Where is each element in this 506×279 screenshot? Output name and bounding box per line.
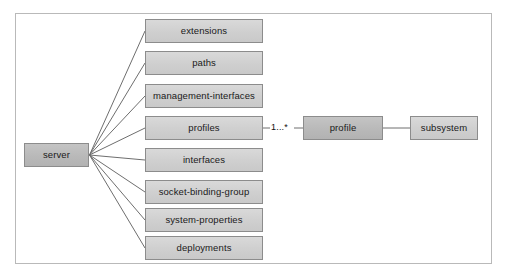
node-server-label: server	[43, 150, 70, 160]
node-socket-binding-group-label: socket-binding-group	[159, 187, 250, 197]
node-interfaces-label: interfaces	[183, 155, 225, 165]
node-extensions[interactable]: extensions	[145, 19, 263, 43]
node-profiles[interactable]: profiles	[145, 116, 263, 140]
diagram-canvas: server extensions paths management-inter…	[0, 0, 506, 279]
node-socket-binding-group[interactable]: socket-binding-group	[145, 180, 263, 204]
node-management-interfaces[interactable]: management-interfaces	[145, 84, 263, 108]
node-subsystem-label: subsystem	[421, 123, 467, 133]
node-interfaces[interactable]: interfaces	[145, 148, 263, 172]
node-server[interactable]: server	[24, 143, 89, 167]
node-profile-label: profile	[330, 123, 357, 133]
node-paths-label: paths	[192, 58, 216, 68]
node-extensions-label: extensions	[181, 26, 227, 36]
node-paths[interactable]: paths	[145, 51, 263, 75]
node-system-properties-label: system-properties	[165, 215, 242, 225]
node-subsystem[interactable]: subsystem	[410, 116, 478, 140]
edge-label-multiplicity: 1...*	[271, 123, 288, 132]
node-deployments-label: deployments	[177, 243, 232, 253]
node-profile[interactable]: profile	[303, 116, 383, 140]
node-system-properties[interactable]: system-properties	[145, 208, 263, 232]
node-profiles-label: profiles	[188, 123, 219, 133]
node-management-interfaces-label: management-interfaces	[153, 91, 255, 101]
node-deployments[interactable]: deployments	[145, 236, 263, 260]
